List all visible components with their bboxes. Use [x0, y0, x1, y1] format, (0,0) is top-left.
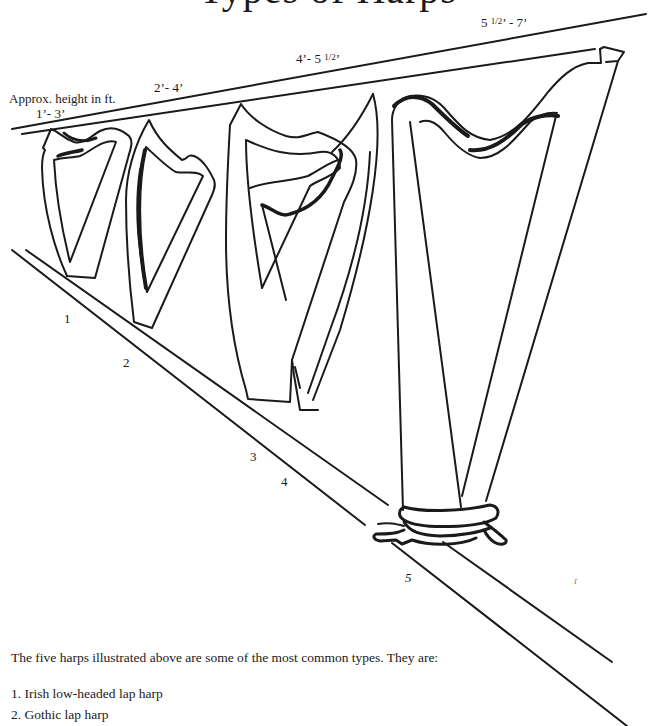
height-label-harp-3: 4’- 5 1/2’	[296, 50, 340, 66]
harp-number-1: 1	[64, 312, 71, 326]
height-label-harp-5-prefix: 5	[481, 15, 491, 30]
height-label-harp-5-fraction: 1/2	[491, 16, 503, 26]
list-item: 2. Gothic lap harp	[11, 704, 163, 725]
harp-type-list: 1. Irish low-headed lap harp 2. Gothic l…	[11, 683, 163, 725]
height-label-harp-2: 2’- 4’	[154, 81, 183, 95]
harp-3-4-celtic-harps	[226, 94, 378, 410]
harp-illustration	[0, 0, 656, 726]
height-label-harp-5-main: ’ - 7’	[502, 15, 527, 30]
stray-mark: ɾ	[574, 575, 577, 586]
height-label-harp-1: 1’- 3’	[36, 107, 65, 121]
harp-number-4: 4	[281, 475, 288, 489]
height-label-harp-3-fraction: 1/2	[324, 52, 336, 62]
harp-number-3: 3	[250, 450, 257, 464]
axis-label: Approx. height in ft.	[9, 92, 116, 106]
harp-number-2: 2	[123, 356, 130, 370]
height-label-harp-5: 5 1/2’ - 7’	[481, 14, 527, 30]
height-label-harp-3-suffix: ’	[336, 51, 340, 66]
intro-paragraph: The five harps illustrated above are som…	[11, 650, 438, 666]
harp-number-5: 5	[405, 571, 412, 585]
harp-5-pedal-harp	[374, 47, 624, 544]
list-item: 1. Irish low-headed lap harp	[11, 683, 163, 704]
harp-2-gothic-lap-harp	[126, 120, 215, 328]
harp-1-irish-lap-harp	[42, 128, 131, 278]
height-label-harp-3-main: 4’- 5	[296, 51, 324, 66]
